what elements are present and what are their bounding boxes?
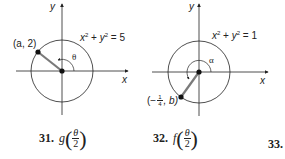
point-dot	[178, 94, 183, 99]
origin-dot	[59, 68, 64, 73]
right-equation: x2 + y2 = 1	[212, 30, 257, 41]
left-angle-label: θ	[72, 52, 76, 62]
exercise-32: 32. f ( θ 2 )	[153, 128, 198, 149]
right-point-label: (− 1 4 , b)	[147, 94, 178, 107]
left-point-label: (a, 2)	[13, 38, 36, 49]
right-angle-label: α	[209, 55, 214, 65]
left-x-label: x	[122, 74, 127, 85]
right-x-label: x	[260, 75, 265, 86]
radius-segment	[38, 52, 62, 71]
left-y-label: y	[50, 1, 55, 12]
radius-segment	[181, 72, 199, 97]
right-y-label: y	[189, 1, 194, 12]
point-dot	[35, 49, 40, 54]
origin-dot	[196, 69, 201, 74]
exercise-31: 31. g ( θ 2 )	[39, 128, 87, 149]
left-equation: x2 + y2 = 5	[80, 32, 125, 43]
exercise-33: 33.	[268, 134, 283, 152]
